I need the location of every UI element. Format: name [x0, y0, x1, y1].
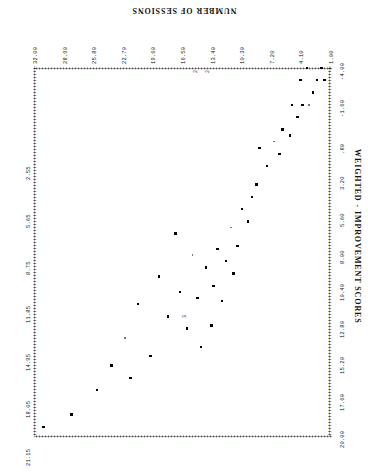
data-point	[42, 426, 44, 428]
data-point	[320, 67, 322, 69]
data-point	[205, 266, 207, 268]
y-minor-tick-label: 21.15	[26, 448, 32, 465]
plot-border-left: ++++++++++++++++++++++++++++++++++++++++…	[328, 66, 334, 436]
y-minor-tick-label: 5.65	[26, 214, 32, 228]
data-point	[247, 220, 249, 222]
data-point	[278, 153, 280, 155]
x-tick-label: 28.90	[63, 47, 69, 64]
y-minor-tick-label: 14.95	[26, 353, 32, 370]
data-point	[158, 275, 160, 277]
data-point	[129, 377, 131, 379]
x-tick-label: 19.60	[151, 47, 157, 64]
plot-border-right: ++++++++++++++++++++++++++++++++++++++++…	[33, 66, 39, 436]
data-point	[289, 134, 291, 136]
plot-border-top: ++++++++++++++++++++++++++++++++++++++++…	[34, 433, 332, 438]
data-point	[196, 297, 198, 299]
data-point	[281, 128, 283, 130]
data-point	[212, 285, 214, 287]
data-point	[149, 355, 151, 357]
data-point	[273, 141, 275, 143]
y-tick-label: 12.80	[340, 320, 346, 337]
y-minor-tick-label: 2.55	[26, 167, 32, 181]
y-tick-label: 3.20	[340, 177, 346, 191]
data-point	[179, 291, 181, 293]
x-tick-label: 10.30	[240, 47, 246, 64]
data-point	[266, 165, 268, 167]
scatter-plot-figure: WEIGHTED · IMPROVEMENT SCORES NUMBER OF …	[0, 0, 368, 472]
y-tick-label: 15.20	[340, 357, 346, 374]
x-tick-label: 4.10	[299, 50, 305, 64]
y-tick-label: -4.00	[340, 63, 346, 80]
data-point	[316, 79, 318, 81]
data-point	[258, 147, 260, 149]
data-point	[70, 413, 72, 415]
x-tick-label: 16.50	[181, 47, 187, 64]
x-tick-label: 25.80	[92, 47, 98, 64]
x-axis-title: NUMBER OF SESSIONS	[0, 6, 368, 15]
data-point	[312, 91, 314, 93]
data-point	[251, 196, 253, 198]
y-minor-tick-label: 8.75	[26, 262, 32, 276]
data-point	[137, 303, 139, 305]
y-tick-label: .80	[340, 143, 346, 153]
y-axis-title: WEIGHTED · IMPROVEMENT SCORES	[350, 0, 364, 472]
data-point	[230, 227, 232, 229]
plot-border-bottom: ++++++++++++++++++++++++++++++++++++++++…	[34, 65, 332, 70]
y-tick-label: 17.60	[340, 394, 346, 411]
y-minor-tick-label: 18.05	[26, 401, 32, 418]
data-point	[296, 116, 298, 118]
data-point	[323, 79, 325, 81]
x-tick-label: 7.20	[270, 50, 276, 64]
data-point	[174, 232, 176, 234]
data-point	[192, 254, 194, 256]
data-point	[200, 346, 202, 348]
overlap-count-label: 2	[205, 70, 211, 73]
overlap-count-label: 2	[193, 70, 199, 73]
data-point	[306, 67, 308, 69]
data-point	[236, 245, 238, 247]
plot-area: ++++++++++++++++++++++++++++++++++++++++…	[36, 68, 332, 436]
data-point	[308, 104, 310, 106]
data-point	[167, 315, 169, 317]
data-point	[291, 104, 293, 106]
overlap-count-label: 3	[182, 315, 188, 318]
data-point	[299, 79, 301, 81]
y-minor-tick-label: 11.85	[26, 306, 32, 323]
data-point	[221, 300, 223, 302]
x-tick-label: 1.00	[329, 50, 335, 64]
y-tick-label: 5.60	[340, 213, 346, 227]
data-point	[186, 327, 188, 329]
data-point	[232, 272, 234, 274]
y-tick-label: 10.40	[340, 284, 346, 301]
y-tick-label: -1.60	[340, 100, 346, 117]
data-point	[96, 389, 98, 391]
data-point	[211, 324, 213, 326]
data-point	[225, 260, 227, 262]
data-point	[124, 337, 126, 339]
x-tick-label: 22.70	[122, 47, 128, 64]
x-tick-label: 13.40	[211, 47, 217, 64]
x-tick-label: 32.00	[33, 47, 39, 64]
data-point	[255, 183, 257, 185]
data-point	[110, 364, 112, 366]
data-point	[241, 208, 243, 210]
y-tick-label: 20.00	[340, 431, 346, 448]
data-point	[301, 104, 303, 106]
data-point	[216, 248, 218, 250]
y-tick-label: 8.00	[340, 250, 346, 264]
